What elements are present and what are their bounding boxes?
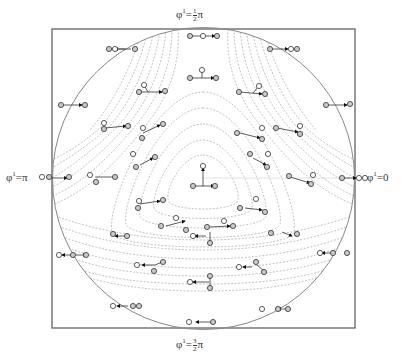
glyph [247,151,270,169]
glyph [139,121,165,140]
glyph [135,197,165,210]
label-bottom: φ1=32π [176,337,203,353]
glyph [110,231,129,238]
phase-diagram [0,0,405,362]
glyph [187,67,218,80]
glyph [158,215,188,232]
glyph [190,232,212,246]
glyph [39,174,71,179]
glyph [187,33,219,38]
label-right: φ1=0 [367,170,389,183]
glyph [136,82,167,94]
glyph [236,259,266,274]
label-left: φ1=π [6,170,28,183]
glyph [190,163,217,188]
glyph [186,319,215,324]
glyph [204,218,235,229]
glyph [259,306,290,311]
glyph [130,151,157,169]
glyph [234,125,264,141]
glyph [323,101,352,107]
glyph [56,252,88,257]
glyph [237,196,267,214]
glyph [87,172,117,184]
glyph [339,175,367,180]
molecule-glyphs [39,33,367,324]
glyph [317,250,349,255]
glyph [236,83,267,96]
glyph [101,120,130,131]
label-top: φ1=12π [176,7,203,23]
